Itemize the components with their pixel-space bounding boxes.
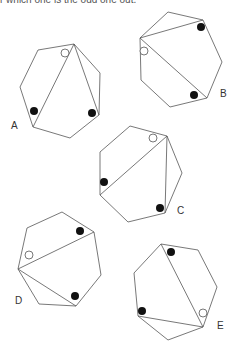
figure-e: E: [134, 244, 224, 340]
white-dot: [149, 134, 157, 142]
diagonal-line: [161, 244, 203, 327]
black-dot: [100, 178, 108, 186]
diagonal-line: [74, 44, 99, 115]
figure-label: E: [217, 320, 224, 331]
black-dot: [190, 91, 198, 99]
figure-b: B: [140, 12, 227, 107]
white-dot: [61, 49, 69, 57]
black-dot: [71, 292, 79, 300]
heptagon-outline: [134, 244, 217, 340]
diagonal-line: [138, 316, 203, 327]
figure-label: C: [177, 205, 184, 216]
diagonal-line: [18, 269, 76, 306]
black-dot: [167, 248, 175, 256]
black-dot: [138, 307, 146, 315]
figure-label: B: [220, 88, 227, 99]
heptagon-outline: [100, 126, 182, 222]
white-dot: [199, 309, 207, 317]
diagonal-line: [165, 136, 167, 213]
figure-label: A: [11, 120, 18, 131]
diagonal-line: [100, 136, 167, 195]
black-dot: [30, 107, 38, 115]
figures-canvas: ABCDE: [0, 0, 237, 353]
white-dot: [140, 47, 148, 55]
heptagon-outline: [20, 44, 100, 138]
black-dot: [88, 109, 96, 117]
figure-d: D: [15, 212, 101, 306]
white-dot: [25, 251, 33, 259]
black-dot: [76, 227, 84, 235]
diagonal-line: [33, 44, 74, 127]
figure-a: A: [11, 44, 100, 138]
black-dot: [156, 204, 164, 212]
diagonal-line: [140, 38, 207, 98]
diagonal-line: [18, 232, 94, 269]
black-dot: [197, 23, 205, 31]
figure-c: C: [100, 126, 184, 222]
figure-label: D: [15, 295, 22, 306]
